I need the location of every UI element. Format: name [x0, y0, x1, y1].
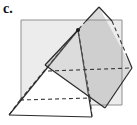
choice-label: c. — [3, 1, 13, 17]
piercing-point — [76, 28, 80, 32]
geometry-figure — [0, 0, 137, 125]
figure-panel: c. — [0, 0, 137, 125]
